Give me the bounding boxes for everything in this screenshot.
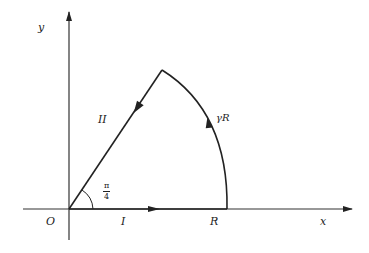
segment-ii-label: II bbox=[98, 114, 107, 125]
contour-diagram bbox=[0, 0, 369, 253]
angle-label: π 4 bbox=[103, 182, 110, 201]
segment-i-arrow-icon bbox=[148, 206, 160, 212]
segment-ii bbox=[69, 70, 162, 209]
x-axis-label: x bbox=[320, 216, 326, 227]
origin-label: O bbox=[46, 216, 55, 227]
y-axis-label: y bbox=[38, 22, 44, 33]
angle-arc bbox=[82, 190, 93, 209]
angle-denominator: 4 bbox=[103, 192, 110, 201]
angle-numerator: π bbox=[103, 182, 110, 192]
radius-label: R bbox=[210, 216, 218, 227]
arc-label: γR bbox=[216, 113, 230, 123]
segment-i-label: I bbox=[121, 216, 125, 227]
arc-gamma-r bbox=[162, 70, 227, 209]
